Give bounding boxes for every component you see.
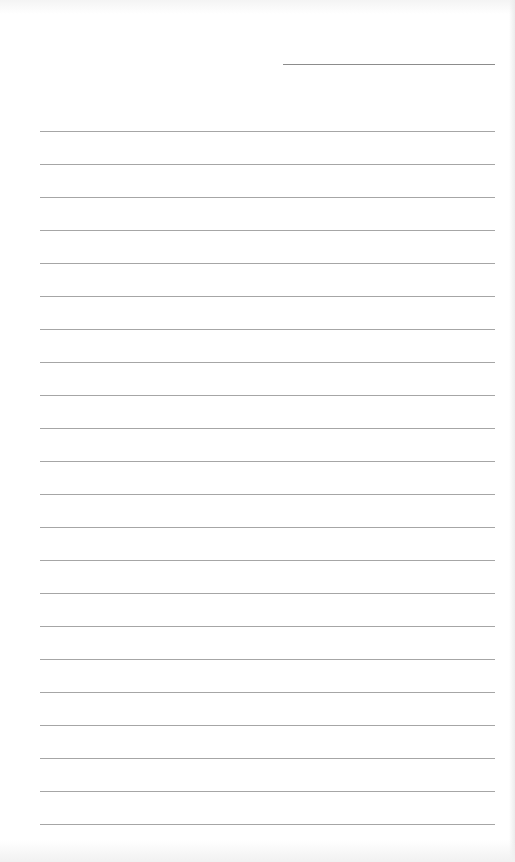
- ruled-line: [40, 659, 495, 660]
- ruled-line: [40, 692, 495, 693]
- ruled-line: [40, 725, 495, 726]
- ruled-line: [40, 428, 495, 429]
- ruled-line: [40, 494, 495, 495]
- ruled-line: [40, 197, 495, 198]
- page-top-shadow: [0, 0, 515, 14]
- ruled-line: [40, 593, 495, 594]
- ruled-line: [40, 230, 495, 231]
- ruled-line: [40, 758, 495, 759]
- header-date-line: [283, 64, 495, 65]
- ruled-line: [40, 461, 495, 462]
- ruled-line: [40, 131, 495, 132]
- ruled-line: [40, 527, 495, 528]
- page-right-edge-shadow: [509, 0, 515, 862]
- ruled-line: [40, 824, 495, 825]
- ruled-line: [40, 296, 495, 297]
- ruled-line: [40, 560, 495, 561]
- ruled-line: [40, 329, 495, 330]
- ruled-line: [40, 395, 495, 396]
- ruled-line: [40, 263, 495, 264]
- ruled-line: [40, 362, 495, 363]
- ruled-line: [40, 791, 495, 792]
- lined-paper-page: [0, 0, 515, 862]
- page-bottom-shadow: [0, 840, 515, 862]
- ruled-line: [40, 626, 495, 627]
- ruled-line: [40, 164, 495, 165]
